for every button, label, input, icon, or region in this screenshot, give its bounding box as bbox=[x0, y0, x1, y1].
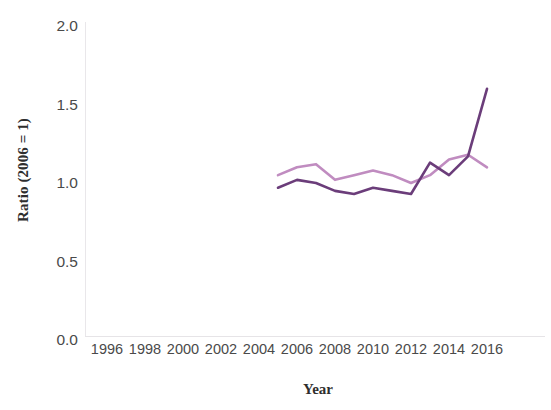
x-axis-title: Year bbox=[85, 381, 551, 398]
y-axis-title: Ratio (2006 = 1) bbox=[10, 10, 36, 330]
y-tick-label: 0.0 bbox=[30, 332, 78, 348]
y-axis-line bbox=[85, 22, 86, 337]
y-tick-label: 1.0 bbox=[30, 175, 78, 191]
y-tick-label: 0.5 bbox=[30, 254, 78, 270]
y-tick-label: 2.0 bbox=[30, 18, 78, 34]
y-tick-label: 1.5 bbox=[30, 97, 78, 113]
x-tick-label: 2016 bbox=[457, 341, 517, 358]
chart-figure: 0.00.51.01.52.0 199619982000200220042006… bbox=[0, 0, 551, 410]
series-line bbox=[278, 89, 487, 194]
x-axis-line bbox=[85, 336, 545, 337]
